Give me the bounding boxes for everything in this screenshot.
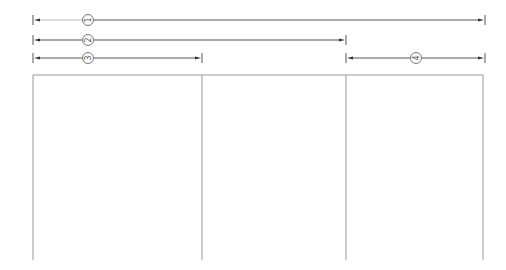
dimension-label-2: 2 (84, 37, 93, 42)
panel-frame (33, 75, 483, 260)
dimension-line-2: 2 (33, 35, 346, 46)
dimension-label-1: 1 (84, 17, 93, 22)
dimension-diagram: 1 2 3 4 (0, 0, 506, 270)
dimension-label-3: 3 (84, 55, 93, 60)
dimension-line-3: 3 (33, 53, 202, 64)
dimension-line-4: 4 (346, 53, 485, 64)
dimension-line-1: 1 (33, 15, 485, 26)
dimension-label-4: 4 (412, 55, 421, 60)
